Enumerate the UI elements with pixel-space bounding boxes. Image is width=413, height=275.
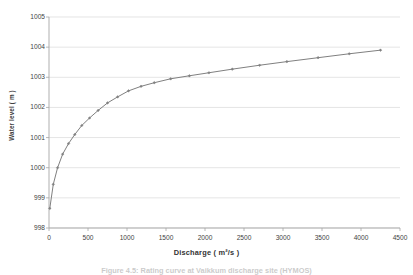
y-tick-label-1004: 1004 (5, 43, 45, 50)
y-tick-label-1005: 1005 (5, 13, 45, 20)
tick-marks-group (46, 17, 400, 231)
x-tick-label-1000: 1000 (107, 234, 147, 241)
data-point-marker (286, 60, 289, 63)
data-point-marker (208, 71, 211, 74)
x-tick-label-4500: 4500 (380, 234, 413, 241)
data-series-group (48, 49, 381, 210)
y-tick-label-999: 999 (5, 194, 45, 201)
data-point-marker (52, 183, 55, 186)
data-point-marker (348, 52, 351, 55)
axis-lines-group (49, 17, 400, 228)
x-tick-label-4000: 4000 (341, 234, 381, 241)
x-tick-label-3500: 3500 (302, 234, 342, 241)
x-axis-tick-labels: 050010001500200025003000350040004500 (0, 234, 413, 248)
data-point-marker (140, 85, 143, 88)
x-tick-label-2000: 2000 (185, 234, 225, 241)
series-line-0 (50, 50, 381, 208)
data-point-marker (153, 81, 156, 84)
data-point-marker (379, 49, 382, 52)
data-point-marker (231, 68, 234, 71)
x-tick-label-500: 500 (68, 234, 108, 241)
x-tick-label-2500: 2500 (224, 234, 264, 241)
figure-caption: Figure 4.5: Rating curve at Vaikkum disc… (0, 266, 413, 275)
x-tick-label-1500: 1500 (146, 234, 186, 241)
data-point-marker (258, 64, 261, 67)
data-point-marker (56, 166, 59, 169)
y-tick-label-1000: 1000 (5, 164, 45, 171)
data-point-marker (169, 77, 172, 80)
x-tick-label-0: 0 (29, 234, 69, 241)
x-axis-title: Discharge ( m²/s ) (0, 248, 413, 257)
y-axis-title: Water level ( m ) (8, 68, 15, 164)
y-tick-label-998: 998 (5, 224, 45, 231)
gridlines-group (49, 17, 400, 228)
x-tick-label-3000: 3000 (263, 234, 303, 241)
data-point-marker (317, 56, 320, 59)
data-point-marker (188, 74, 191, 77)
